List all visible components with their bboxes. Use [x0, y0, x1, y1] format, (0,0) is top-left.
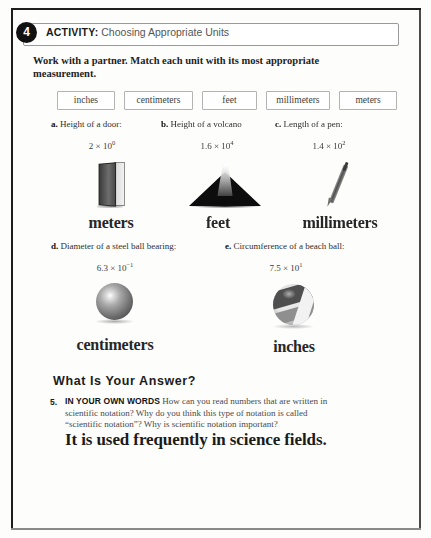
problem-c-text: Length of a pen:	[284, 119, 343, 129]
volcano-base-part	[191, 205, 259, 208]
unit-box-inches[interactable]: inches	[57, 91, 115, 110]
beach-ball-shadow-part	[273, 324, 314, 329]
unit-box-centimeters[interactable]: centimeters	[124, 91, 193, 110]
problem-a-exponent: 0	[112, 139, 115, 146]
problem-a-answer: meters	[51, 214, 171, 232]
problem-c-answer: millimeters	[275, 214, 405, 232]
student-answer-text: It is used frequently in science fields.	[65, 430, 395, 450]
worksheet-page: 4 ACTIVITY: Choosing Appropriate Units W…	[0, 0, 431, 538]
question-text: IN YOUR OWN WORDS How can you read numbe…	[65, 396, 341, 431]
problem-a-mantissa: 2 × 10	[89, 141, 112, 151]
question-number: 5.	[50, 397, 57, 407]
volcano-spark-part	[222, 161, 229, 168]
problem-a-letter: a.	[51, 119, 58, 129]
problem-c-mantissa: 1.4 × 10	[312, 141, 342, 151]
problem-a: a. Height of a door: 2 × 100 meters	[51, 118, 171, 232]
beach-ball-highlight	[282, 289, 296, 299]
problem-e-prompt: e. Circumference of a beach ball:	[225, 240, 395, 252]
page-border-right	[419, 8, 421, 530]
problem-d-mantissa: 6.3 × 10	[97, 263, 127, 273]
problem-b-prompt: b. Height of a volcano	[161, 118, 289, 130]
door-shadow-part	[97, 205, 123, 208]
problem-c: c. Length of a pen: 1.4 × 102 millimeter…	[275, 118, 405, 232]
pen-icon	[316, 160, 364, 208]
problem-e-text: Circumference of a beach ball:	[234, 241, 345, 251]
problem-b-answer: feet	[161, 214, 289, 232]
problem-b-mantissa: 1.6 × 10	[200, 141, 230, 151]
activity-title-text: Choosing Appropriate Units	[101, 26, 229, 38]
problem-d-letter: d.	[51, 241, 58, 251]
beach-ball-icon	[269, 282, 319, 330]
page-content: 4 ACTIVITY: Choosing Appropriate Units W…	[13, 10, 419, 528]
problem-b-art	[161, 160, 289, 208]
problem-c-exponent: 2	[342, 139, 345, 146]
problem-c-art	[275, 160, 405, 208]
problem-b-exponent: 4	[230, 139, 233, 146]
unit-box-feet[interactable]: feet	[202, 91, 257, 110]
beach-ball-sphere-part	[273, 284, 314, 325]
activity-number-badge: 4	[16, 22, 37, 43]
problem-e-mantissa: 7.5 × 10	[269, 263, 299, 273]
problem-e-value: 7.5 × 101	[225, 259, 395, 274]
activity-title: ACTIVITY: Choosing Appropriate Units	[46, 26, 229, 38]
door-icon	[94, 162, 128, 208]
problem-b: b. Height of a volcano 1.6 × 104 feet	[161, 118, 289, 232]
problem-d-answer: centimeters	[51, 336, 221, 354]
problem-e-letter: e.	[225, 241, 231, 251]
what-is-your-answer-heading: What Is Your Answer?	[53, 374, 196, 388]
page-border-bottom	[11, 528, 421, 530]
unit-box-meters[interactable]: meters	[339, 91, 397, 110]
problem-b-text: Height of a volcano	[171, 119, 242, 129]
problem-a-value: 2 × 100	[51, 137, 171, 152]
problem-a-text: Height of a door:	[60, 119, 122, 129]
problem-d-text: Diameter of a steel ball bearing:	[61, 241, 177, 251]
question-lead-label: IN YOUR OWN WORDS	[65, 396, 160, 406]
volcano-icon	[189, 160, 261, 208]
instruction-text: Work with a partner. Match each unit wit…	[33, 54, 333, 80]
door-panel-part	[99, 162, 116, 207]
problem-e-answer: inches	[225, 338, 395, 356]
steel-ball-icon	[93, 282, 137, 326]
problem-d-value: 6.3 × 10−1	[51, 259, 221, 274]
problem-e: e. Circumference of a beach ball: 7.5 × …	[225, 240, 395, 356]
steel-ball-shadow-part	[95, 319, 134, 324]
unit-box-millimeters[interactable]: millimeters	[266, 91, 330, 110]
problem-a-art	[51, 160, 171, 208]
problem-b-letter: b.	[161, 119, 168, 129]
problem-d-art	[9, 282, 221, 330]
activity-label: ACTIVITY:	[46, 26, 98, 38]
problem-c-letter: c.	[275, 119, 281, 129]
problem-d-exponent: −1	[126, 261, 133, 268]
steel-ball-sphere-part	[96, 283, 133, 320]
problem-e-art	[193, 282, 395, 330]
problem-d-prompt: d. Diameter of a steel ball bearing:	[51, 240, 221, 252]
problem-c-prompt: c. Length of a pen:	[275, 118, 405, 130]
problem-a-prompt: a. Height of a door:	[51, 118, 171, 130]
unit-word-bank: inches centimeters feet millimeters mete…	[57, 91, 397, 110]
problem-b-value: 1.6 × 104	[161, 137, 289, 152]
problem-c-value: 1.4 × 102	[275, 137, 405, 152]
problem-e-exponent: 1	[299, 261, 302, 268]
